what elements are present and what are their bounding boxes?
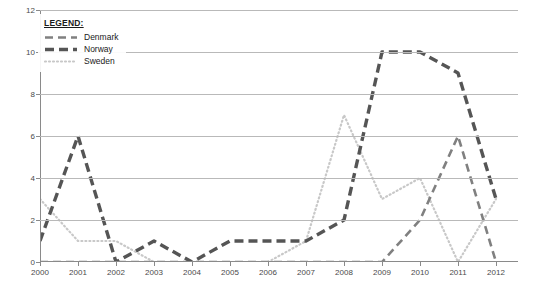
y-axis-tick-label: 2 [31,216,35,225]
x-axis-tick-mark [230,262,231,266]
y-axis-tick-label: 4 [31,174,35,183]
x-axis-tick-mark [154,262,155,266]
x-axis-tick-mark [268,262,269,266]
gridline [40,10,518,11]
legend-item-sweden: Sweden [44,55,118,67]
x-axis-tick-label: 2009 [373,268,391,277]
y-axis-tick-label: 10 [26,48,35,57]
line-chart: 024681012 200020012002200320042005200620… [0,0,534,293]
x-axis-tick-label: 2008 [335,268,353,277]
legend-item-label: Denmark [84,32,118,42]
x-axis-tick-mark [116,262,117,266]
y-axis-tick-label: 6 [31,132,35,141]
y-axis-tick-mark [36,136,40,137]
x-axis-tick-label: 2001 [69,268,87,277]
x-axis-tick-label: 2002 [107,268,125,277]
legend-swatch-icon [44,32,78,43]
x-axis-tick-mark [420,262,421,266]
x-axis-line [40,261,518,262]
legend-entries: DenmarkNorwaySweden [44,31,118,67]
y-axis-tick-mark [36,10,40,11]
legend-item-denmark: Denmark [44,31,118,43]
x-axis-tick-label: 2012 [487,268,505,277]
x-axis-tick-mark [78,262,79,266]
gridline [40,94,518,95]
gridline [40,220,518,221]
x-axis-tick-mark [496,262,497,266]
legend-item-norway: Norway [44,43,118,55]
x-axis-tick-mark [40,262,41,266]
series-line-norway [40,52,496,262]
y-axis-tick-label: 8 [31,90,35,99]
x-axis-tick-label: 2004 [183,268,201,277]
legend: LEGEND: DenmarkNorwaySweden [38,14,126,72]
legend-title: LEGEND: [44,18,118,28]
x-axis-tick-label: 2010 [411,268,429,277]
x-axis-tick-mark [192,262,193,266]
y-axis-tick-label: 0 [31,258,35,267]
x-axis-tick-label: 2003 [145,268,163,277]
legend-item-label: Sweden [84,56,115,66]
y-axis-tick-mark [36,94,40,95]
series-line-denmark [40,136,496,262]
x-axis-tick-label: 2005 [221,268,239,277]
gridline [40,178,518,179]
legend-swatch-icon [44,56,78,67]
y-axis-tick-label: 12 [26,6,35,15]
x-axis-tick-mark [382,262,383,266]
y-axis-tick-mark [36,178,40,179]
y-axis-tick-mark [36,220,40,221]
x-axis-tick-label: 2011 [449,268,466,277]
x-axis-tick-label: 2000 [31,268,49,277]
legend-item-label: Norway [84,44,113,54]
legend-swatch-icon [44,44,78,55]
x-axis-tick-label: 2006 [259,268,277,277]
x-axis-tick-mark [306,262,307,266]
x-axis-tick-mark [458,262,459,266]
x-axis-tick-label: 2007 [297,268,315,277]
gridline [40,136,518,137]
x-axis-tick-mark [344,262,345,266]
